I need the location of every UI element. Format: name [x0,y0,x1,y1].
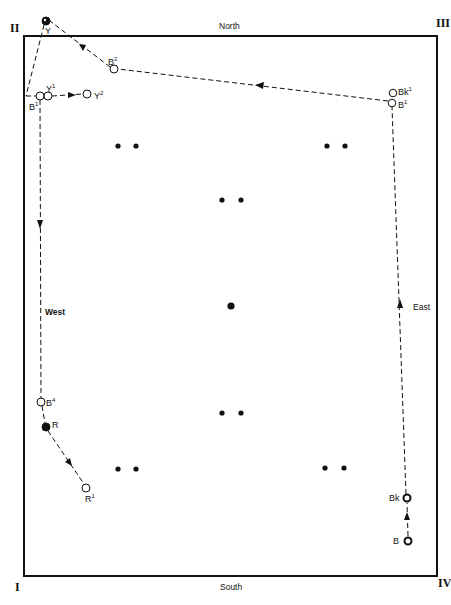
marker-b1-east [388,99,396,107]
marker-b [405,538,412,545]
arrowheads [37,44,410,520]
marker-b1-west [36,92,44,100]
marker-label-b1-west: B1 [29,101,38,112]
marker-label-bk1: Bk1 [398,86,412,97]
dot [341,465,346,470]
dot [238,197,243,202]
dot [115,466,120,471]
sw-path [48,431,84,484]
dot [322,465,327,470]
marker-label-y1: Y1 [46,83,55,94]
marker-label-b2: B2 [108,56,117,67]
north-path-b [50,21,110,67]
label-south: South [220,583,242,592]
arrow-up-icon [397,299,403,308]
east-path-long [392,107,406,494]
marker-b4 [37,398,45,406]
marker-label-r1: R1 [85,493,95,504]
marker-y-inner [44,19,46,21]
marker-bk [404,495,411,502]
marker-label-bk: Bk [389,494,400,503]
arrow-left-icon [79,44,86,51]
marker-y [42,17,50,25]
arrow-left-icon [255,82,264,89]
dot [238,410,243,415]
fixed-dots [115,143,347,471]
dot [324,143,329,148]
label-east: East [413,303,430,312]
dot [219,410,224,415]
marker-label-b: B [393,537,399,546]
marker-r [42,423,50,431]
corner-label-bottom-left: I [15,581,20,593]
north-path-a [118,69,388,101]
marker-y2 [83,90,91,98]
marker-label-b1-east: B1 [398,99,407,110]
marker-label-r: R [52,421,59,430]
west-path [40,100,41,398]
corner-label-top-right: III [436,17,450,29]
dot [133,466,138,471]
arrow-down-icon [37,220,43,229]
center-dot [227,302,234,309]
paths [26,21,408,536]
b4-r-path [42,406,45,423]
dot [342,143,347,148]
marker-r1 [82,484,90,492]
arrow-down-right-icon [65,458,72,466]
marker-label-y2: Y2 [94,90,103,101]
dot [115,143,120,148]
marker-label-y: Y [45,27,51,36]
arrow-up-icon [404,512,410,520]
arrow-right-icon [68,92,76,98]
marker-label-b4: B4 [46,397,55,408]
y1-y2-path [52,94,83,96]
marker-bk1 [389,89,397,97]
dot [133,143,138,148]
corner-label-top-left: II [10,22,19,34]
corner-label-bottom-right: IV [438,577,451,589]
label-west: West [45,308,65,317]
markers [36,17,412,545]
dot [219,197,224,202]
label-north: North [219,22,240,31]
